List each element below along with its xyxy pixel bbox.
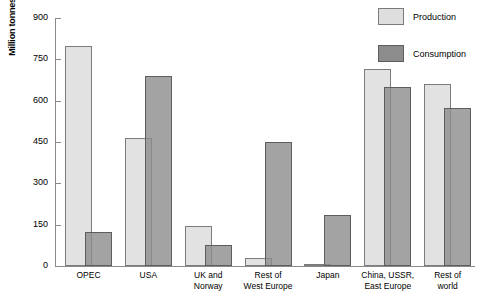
- bar-group: [304, 18, 351, 266]
- bar-group: [125, 18, 172, 266]
- bar-consumption[interactable]: [85, 232, 112, 266]
- bar-consumption[interactable]: [444, 108, 471, 266]
- bar-group: [245, 18, 292, 266]
- x-axis-label: Rest of world: [408, 270, 482, 291]
- legend-swatch-consumption-icon: [378, 45, 404, 62]
- bar-consumption[interactable]: [265, 142, 292, 266]
- bar-consumption[interactable]: [384, 87, 411, 266]
- legend-label-consumption: Consumption: [413, 49, 466, 59]
- bar-group: [65, 18, 112, 266]
- bar-consumption[interactable]: [145, 76, 172, 266]
- y-tick-label: 600: [14, 95, 48, 105]
- legend-item-consumption[interactable]: Consumption: [378, 45, 466, 62]
- y-tick-label: 0: [14, 260, 48, 270]
- y-tick-label: 300: [14, 177, 48, 187]
- legend-item-production[interactable]: Production: [378, 8, 466, 25]
- x-axis-line: [55, 266, 475, 267]
- y-tick-label: 450: [14, 136, 48, 146]
- legend-label-production: Production: [413, 12, 456, 22]
- bar-consumption[interactable]: [205, 245, 232, 266]
- y-tick-mark: [55, 266, 61, 267]
- y-tick-label: 900: [14, 12, 48, 22]
- legend-swatch-production-icon: [378, 8, 404, 25]
- bar-chart: Million tonnes 0150300450600750900 OPECU…: [0, 0, 482, 301]
- bar-group: [185, 18, 232, 266]
- y-tick-label: 150: [14, 219, 48, 229]
- bar-consumption[interactable]: [324, 215, 351, 266]
- y-tick-label: 750: [14, 53, 48, 63]
